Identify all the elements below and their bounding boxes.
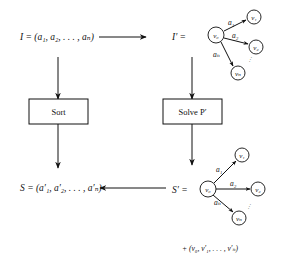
edge-label-an: aₙ xyxy=(214,198,221,207)
node-v1-label: v₁ xyxy=(251,14,257,22)
edge-label-an: aₙ xyxy=(213,50,220,59)
solution-path-label: + (v₀, v′₁, . . . , v′ₙ) xyxy=(182,244,238,253)
edge-label-a2: a₂ xyxy=(232,31,239,40)
input-label: I = (a₁, a₂, . . . , aₙ) xyxy=(19,32,94,43)
edge-label-a1: a₁ xyxy=(216,165,223,174)
node-v0-label: v₀ xyxy=(213,32,219,40)
transformed-input-graph: a₁ a₂ aₙ v₀ v₁ v₂ vₙ ··· xyxy=(208,10,263,80)
edge-an xyxy=(221,42,233,66)
solve-label: Solve P′ xyxy=(178,107,206,117)
solution-graph: a₁ a₂ aₙ v₀ v₁ v₂ vₙ ··· xyxy=(200,148,265,225)
ellipsis: ··· xyxy=(246,55,254,63)
edge-label-a1: a₁ xyxy=(228,18,235,27)
edge-label-a2: a₂ xyxy=(230,179,237,188)
node-vn-label: vₙ xyxy=(236,215,242,223)
output-label: S = (a′₁, a′₂, . . . , a′ₙ) xyxy=(20,183,102,194)
transformed-input-label: I′ = xyxy=(171,32,186,42)
node-v2-label: v₂ xyxy=(253,44,259,52)
ellipsis: ··· xyxy=(245,202,253,210)
reduction-diagram: I = (a₁, a₂, . . . , aₙ) I′ = a₁ a₂ aₙ v… xyxy=(0,0,281,262)
sort-label: Sort xyxy=(51,107,66,117)
node-v2-label: v₂ xyxy=(255,186,261,194)
node-v1-label: v₁ xyxy=(239,152,245,160)
node-vn-label: vₙ xyxy=(235,70,241,78)
solution-label: S′ = xyxy=(172,185,188,195)
node-v0-label: v₀ xyxy=(205,186,211,194)
